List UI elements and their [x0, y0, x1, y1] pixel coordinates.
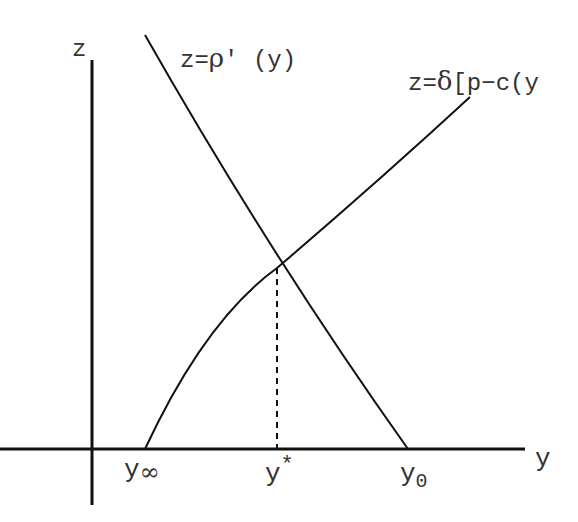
delta-curve: [145, 97, 470, 449]
z-axis-label: z: [72, 36, 86, 63]
y-axis-label: y: [535, 444, 551, 474]
y-infinity-label: y∞: [124, 455, 160, 486]
rho-prime-curve: [145, 35, 408, 449]
y-zero-label: y0: [400, 459, 428, 493]
diagram-canvas: z y z=ρ′ (y) z=δ[p−c(y y∞ y* y0: [0, 0, 578, 522]
delta-curve-label: z=δ[p−c(y: [408, 66, 539, 97]
y-star-label: y*: [265, 453, 294, 489]
rho-curve-label: z=ρ′ (y): [180, 43, 296, 74]
